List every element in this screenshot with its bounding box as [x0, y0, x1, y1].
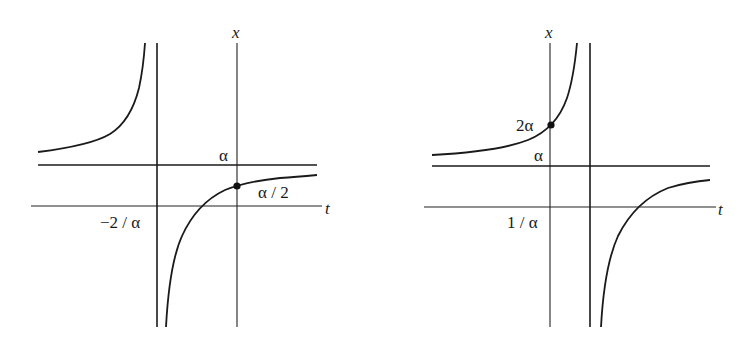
right-graph: x t α 2α 1 / α	[424, 23, 724, 327]
left-marked-point	[233, 182, 240, 189]
right-marked-point	[547, 121, 554, 128]
diagram-canvas: x t α α / 2 −2 / α x t α 2α 1 / α	[0, 0, 750, 352]
left-upper-branch	[38, 43, 145, 152]
right-x-axis-label: x	[544, 23, 553, 42]
left-t-axis-label: t	[325, 199, 331, 218]
right-vertical-asymptote-label: 1 / α	[507, 213, 538, 232]
left-vertical-asymptote-label: −2 / α	[100, 213, 140, 232]
left-lower-branch	[166, 175, 317, 327]
right-t-axis-label: t	[718, 200, 724, 219]
right-alpha-label: α	[534, 146, 543, 165]
left-graph: x t α α / 2 −2 / α	[31, 23, 331, 327]
left-point-label: α / 2	[258, 183, 289, 202]
left-alpha-label: α	[219, 146, 228, 165]
left-x-axis-label: x	[231, 23, 240, 42]
right-lower-branch	[601, 180, 710, 327]
right-upper-branch	[432, 43, 577, 155]
right-point-label: 2α	[516, 116, 534, 135]
